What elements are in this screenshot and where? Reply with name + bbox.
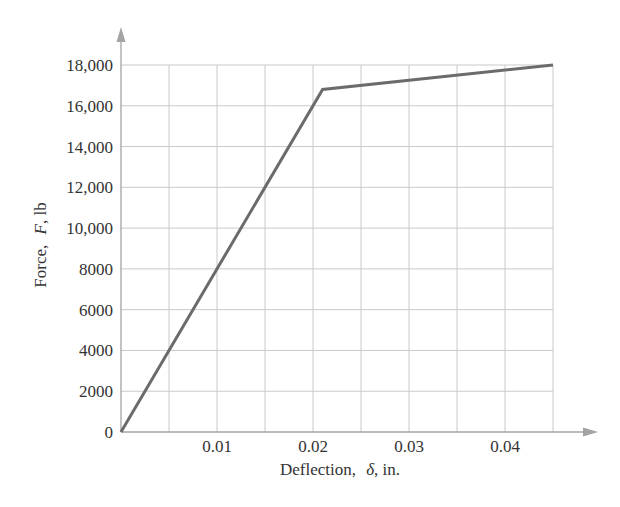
x-tick-label: 0.02 <box>298 437 328 456</box>
y-tick-label: 18,000 <box>66 56 113 75</box>
y-tick-label: 14,000 <box>66 138 113 157</box>
y-axis-label-name: Force, <box>31 245 50 288</box>
y-tick-label: 16,000 <box>66 97 113 116</box>
y-tick-label: 8000 <box>79 260 113 279</box>
y-tick-label: 12,000 <box>66 178 113 197</box>
x-tick-labels: 0.010.020.030.04 <box>202 437 520 456</box>
y-tick-label: 4000 <box>79 341 113 360</box>
y-axis-arrow-icon <box>117 27 126 42</box>
x-axis-label-name: Deflection, <box>280 460 356 479</box>
y-axis-label-symbol: F <box>31 223 50 235</box>
y-tick-label: 10,000 <box>66 219 113 238</box>
y-tick-label: 2000 <box>79 382 113 401</box>
y-tick-labels: 0200040006000800010,00012,00014,00016,00… <box>66 56 113 442</box>
x-tick-label: 0.04 <box>490 437 520 456</box>
data-series <box>121 65 553 432</box>
force-deflection-line <box>121 65 553 432</box>
y-tick-label: 0 <box>105 423 114 442</box>
axes <box>117 27 599 437</box>
force-deflection-chart: 0200040006000800010,00012,00014,00016,00… <box>0 0 620 507</box>
y-tick-label: 6000 <box>79 301 113 320</box>
x-tick-label: 0.03 <box>394 437 424 456</box>
x-axis-label: Deflection, δ, in. <box>280 460 400 479</box>
x-tick-label: 0.01 <box>202 437 232 456</box>
y-axis-label-unit: , lb <box>31 202 50 224</box>
y-axis-label: Force, F, lb <box>31 202 50 287</box>
grid-lines <box>121 65 553 432</box>
x-axis-arrow-icon <box>583 428 598 437</box>
x-axis-label-unit: , in. <box>374 460 400 479</box>
